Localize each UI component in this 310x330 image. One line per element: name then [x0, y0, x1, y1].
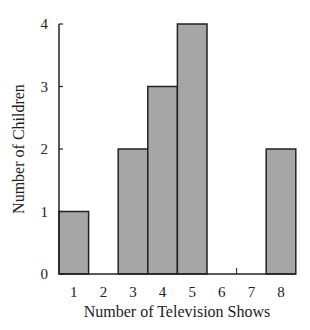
y-tick-label: 1 — [41, 204, 49, 220]
x-tick-label: 3 — [129, 284, 137, 300]
x-tick-label: 4 — [159, 284, 167, 300]
x-tick-label: 6 — [218, 284, 226, 300]
bar-5 — [177, 24, 207, 274]
bar-8 — [266, 149, 296, 274]
bars — [59, 24, 296, 274]
y-tick-label: 0 — [41, 266, 49, 282]
bar-1 — [59, 212, 89, 275]
x-axis-title: Number of Television Shows — [84, 303, 271, 320]
y-tick-label: 3 — [41, 79, 49, 95]
x-tick-label: 5 — [188, 284, 196, 300]
x-tick-label: 2 — [100, 284, 108, 300]
bar-4 — [148, 87, 178, 275]
y-axis-title: Number of Children — [10, 84, 27, 214]
x-tick-label: 7 — [248, 284, 256, 300]
x-tick-label: 8 — [277, 284, 285, 300]
y-tick-label: 2 — [41, 141, 49, 157]
histogram-chart: 01234 12345678 Number of Television Show… — [0, 0, 310, 330]
bar-3 — [118, 149, 148, 274]
x-tick-label: 1 — [70, 284, 78, 300]
y-tick-label: 4 — [41, 16, 49, 32]
